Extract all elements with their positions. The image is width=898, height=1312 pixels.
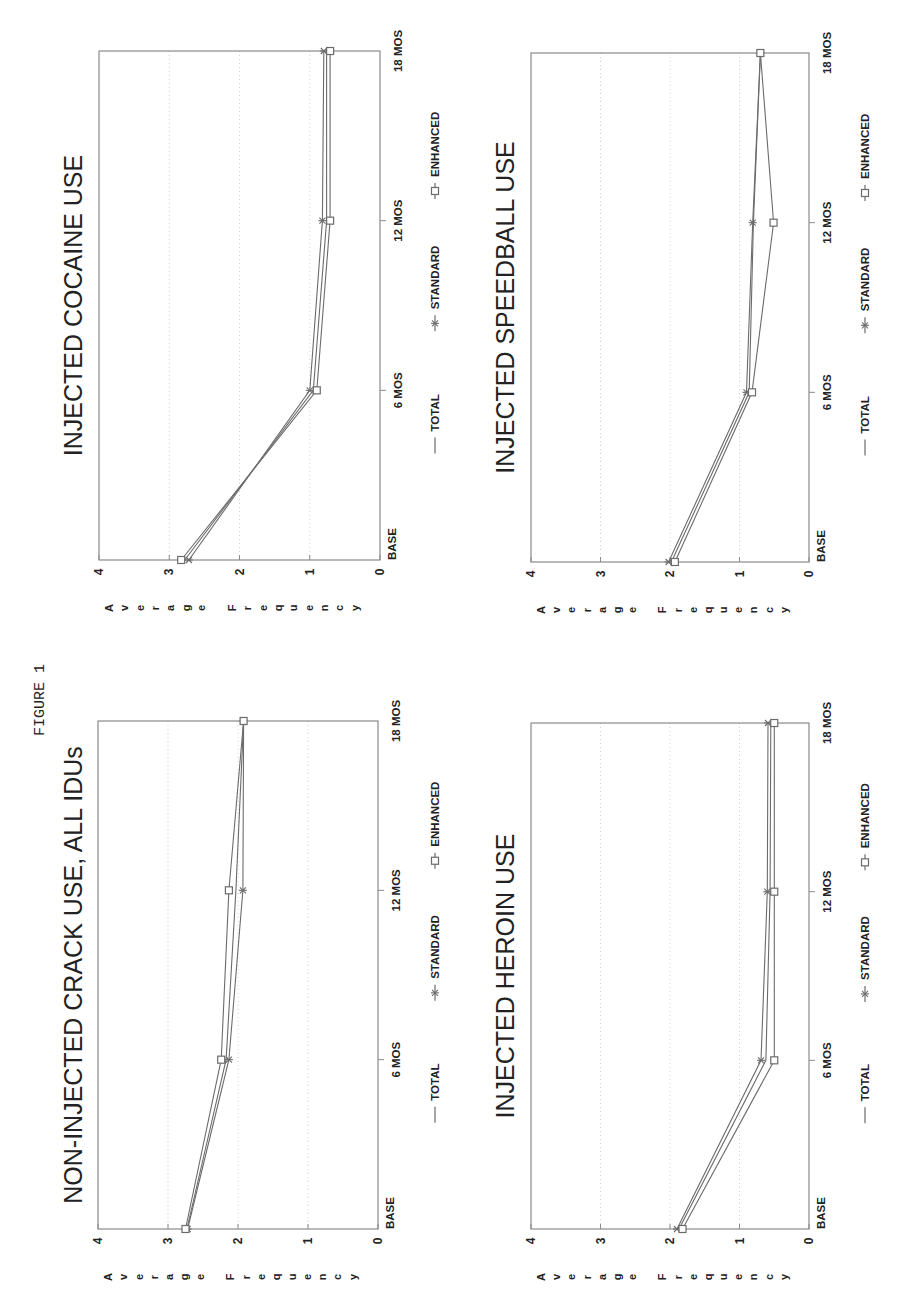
svg-text:q: q bbox=[272, 605, 284, 612]
x-tick-label: 18 MOS bbox=[821, 702, 833, 745]
x-tick-label: 6 MOS bbox=[821, 374, 833, 410]
y-tick-label: 3 bbox=[594, 1237, 608, 1244]
y-axis-label: AverageFrequency bbox=[535, 606, 790, 614]
y-axis-label: AverageFrequency bbox=[103, 604, 361, 612]
enhanced-marker-icon bbox=[225, 887, 232, 894]
svg-text:A: A bbox=[535, 1273, 547, 1281]
svg-text:c: c bbox=[763, 1274, 775, 1280]
chart-bottom-left: 01234BASE6 MOS12 MOS18 MOSAverageFrequen… bbox=[59, 700, 441, 1281]
svg-text:c: c bbox=[333, 605, 345, 611]
enhanced-marker-icon bbox=[679, 1226, 686, 1233]
enhanced-marker-icon bbox=[327, 217, 334, 224]
legend-item-standard: STANDARD bbox=[429, 246, 441, 310]
svg-text:a: a bbox=[596, 1273, 608, 1280]
svg-text:c: c bbox=[331, 1274, 343, 1280]
enhanced-marker-icon bbox=[862, 859, 869, 866]
svg-text:e: e bbox=[133, 1274, 145, 1280]
y-tick-label: 3 bbox=[162, 568, 176, 575]
svg-text:v: v bbox=[550, 1273, 562, 1280]
y-tick-label: 2 bbox=[663, 1237, 677, 1244]
svg-text:n: n bbox=[316, 1273, 328, 1280]
svg-text:q: q bbox=[702, 607, 714, 614]
svg-text:g: g bbox=[611, 1274, 623, 1281]
svg-text:y: y bbox=[347, 1273, 359, 1280]
svg-text:r: r bbox=[241, 605, 253, 610]
series-standard bbox=[184, 718, 248, 1232]
legend-item-total: TOTAL bbox=[429, 394, 441, 431]
x-tick-label: 6 MOS bbox=[821, 1042, 833, 1078]
y-tick-label: 3 bbox=[161, 1237, 175, 1244]
svg-text:e: e bbox=[565, 1274, 577, 1280]
y-tick-label: 0 bbox=[373, 568, 387, 575]
svg-text:A: A bbox=[535, 606, 547, 614]
enhanced-marker-icon bbox=[313, 387, 320, 394]
x-tick-label: BASE bbox=[384, 1197, 396, 1229]
enhanced-marker-icon bbox=[770, 219, 777, 226]
svg-text:e: e bbox=[301, 1274, 313, 1280]
y-tick-label: 0 bbox=[802, 1237, 816, 1244]
svg-text:a: a bbox=[596, 606, 608, 613]
series-standard bbox=[665, 50, 765, 565]
legend-item-enhanced: ENHANCED bbox=[429, 782, 441, 847]
svg-text:F: F bbox=[656, 1273, 668, 1280]
svg-text:g: g bbox=[611, 607, 623, 614]
svg-text:g: g bbox=[178, 1274, 190, 1281]
legend-item-standard: STANDARD bbox=[429, 915, 441, 979]
series-total bbox=[185, 51, 327, 560]
y-tick-label: 2 bbox=[233, 568, 247, 575]
svg-text:r: r bbox=[581, 607, 593, 612]
chart-top-left: 01234BASE6 MOS12 MOS18 MOSAverageFrequen… bbox=[59, 30, 441, 612]
chart-top-right: 01234BASE6 MOS12 MOS18 MOSAverageFrequen… bbox=[491, 32, 871, 614]
x-tick-label: BASE bbox=[815, 530, 827, 562]
svg-text:F: F bbox=[656, 606, 668, 613]
svg-text:a: a bbox=[164, 604, 176, 611]
svg-text:u: u bbox=[717, 607, 729, 614]
series-enhanced bbox=[182, 718, 247, 1233]
legend-item-enhanced: ENHANCED bbox=[859, 783, 871, 848]
series-enhanced bbox=[178, 48, 334, 564]
svg-text:c: c bbox=[763, 607, 775, 613]
svg-text:r: r bbox=[148, 1274, 160, 1279]
enhanced-marker-icon bbox=[240, 718, 247, 725]
series-total bbox=[187, 721, 244, 1229]
y-tick-label: 1 bbox=[303, 568, 317, 575]
y-tick-label: 2 bbox=[231, 1237, 245, 1244]
x-tick-label: 12 MOS bbox=[392, 199, 404, 242]
svg-text:n: n bbox=[747, 606, 759, 613]
x-tick-label: 18 MOS bbox=[390, 700, 402, 743]
y-tick-label: 1 bbox=[301, 1237, 315, 1244]
chart-title: INJECTED SPEEDBALL USE bbox=[491, 141, 519, 474]
svg-text:A: A bbox=[103, 604, 115, 612]
y-tick-label: 4 bbox=[91, 1237, 105, 1244]
svg-text:r: r bbox=[149, 605, 161, 610]
svg-text:u: u bbox=[287, 605, 299, 612]
svg-text:e: e bbox=[303, 605, 315, 611]
svg-text:e: e bbox=[195, 605, 207, 611]
enhanced-marker-icon bbox=[327, 48, 334, 55]
y-axis-label: AverageFrequency bbox=[102, 1273, 359, 1281]
enhanced-marker-icon bbox=[757, 50, 764, 57]
enhanced-marker-icon bbox=[671, 559, 678, 566]
svg-text:y: y bbox=[778, 1273, 790, 1280]
series-standard bbox=[185, 48, 328, 563]
enhanced-marker-icon bbox=[771, 1057, 778, 1064]
y-tick-label: 2 bbox=[663, 570, 677, 577]
svg-text:g: g bbox=[180, 605, 192, 612]
y-tick-label: 4 bbox=[524, 1237, 538, 1244]
x-tick-label: 18 MOS bbox=[821, 32, 833, 75]
x-tick-label: 6 MOS bbox=[390, 1041, 402, 1077]
y-tick-label: 1 bbox=[733, 1237, 747, 1244]
svg-text:v: v bbox=[550, 606, 562, 613]
svg-text:r: r bbox=[672, 1274, 684, 1279]
svg-text:e: e bbox=[565, 607, 577, 613]
svg-text:r: r bbox=[581, 1274, 593, 1279]
enhanced-marker-icon bbox=[432, 857, 439, 864]
svg-text:y: y bbox=[349, 604, 361, 611]
y-tick-label: 0 bbox=[802, 570, 816, 577]
svg-text:a: a bbox=[163, 1273, 175, 1280]
y-tick-label: 3 bbox=[594, 570, 608, 577]
enhanced-marker-icon bbox=[432, 187, 439, 194]
svg-text:e: e bbox=[134, 605, 146, 611]
svg-text:u: u bbox=[286, 1274, 298, 1281]
legend: TOTALSTANDARDENHANCED bbox=[859, 783, 871, 1123]
